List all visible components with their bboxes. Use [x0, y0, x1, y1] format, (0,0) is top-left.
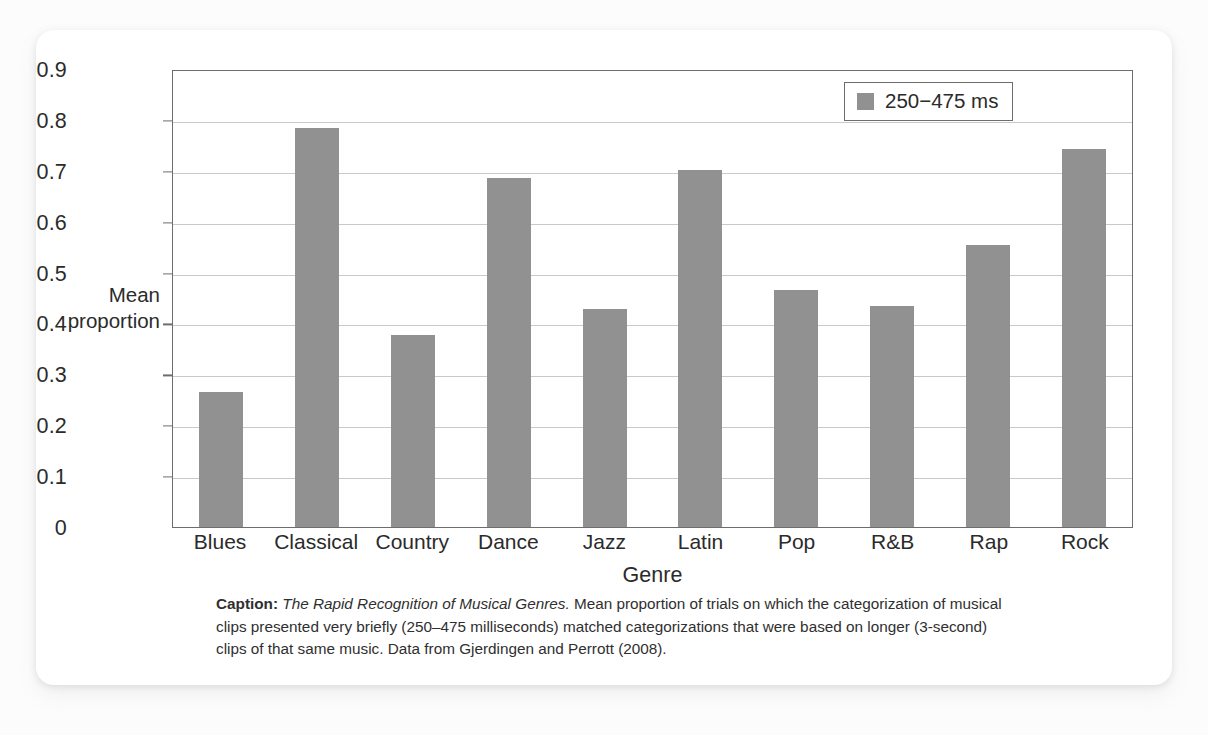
bar-chart: Mean proportion 00.10.20.30.40.50.60.70.… — [36, 30, 1172, 570]
bars-layer — [173, 71, 1132, 527]
bar-jazz — [583, 309, 627, 527]
y-axis-tick-label: 0.7 — [0, 159, 67, 184]
bar-latin — [678, 170, 722, 527]
plot-area — [172, 70, 1133, 528]
bar-slot — [940, 71, 1036, 527]
y-axis-tick-mark — [163, 120, 172, 121]
figure-caption: Caption: The Rapid Recognition of Musica… — [216, 593, 1016, 661]
y-axis-tick-label: 0.3 — [0, 363, 67, 388]
y-axis-tick-mark — [163, 222, 172, 223]
x-axis-tick-label: Rock — [1037, 530, 1133, 554]
y-axis-tick-label: 0.6 — [0, 210, 67, 235]
caption-label: Caption: — [216, 595, 278, 612]
bar-rap — [966, 245, 1010, 527]
y-axis-tick-label: 0.1 — [0, 465, 67, 490]
x-axis-tick-label: Dance — [460, 530, 556, 554]
x-axis-ticks: BluesClassicalCountryDanceJazzLatinPopR&… — [172, 530, 1133, 554]
y-axis-tick-label: 0.5 — [0, 261, 67, 286]
x-axis-tick-label: R&B — [845, 530, 941, 554]
x-axis-title: Genre — [172, 563, 1133, 588]
bar-slot — [1036, 71, 1132, 527]
y-axis-tick-mark — [163, 477, 172, 478]
figure-card: Mean proportion 00.10.20.30.40.50.60.70.… — [36, 30, 1172, 685]
y-axis-tick-mark — [163, 324, 172, 325]
y-axis-tick-label: 0.9 — [0, 58, 67, 83]
bar-slot — [748, 71, 844, 527]
bar-dance — [487, 178, 531, 527]
y-axis-tick-label: 0.8 — [0, 108, 67, 133]
bar-country — [391, 335, 435, 527]
x-axis-tick-label: Pop — [749, 530, 845, 554]
x-axis-tick-label: Latin — [652, 530, 748, 554]
y-axis-tick-mark — [163, 426, 172, 427]
bar-slot — [173, 71, 269, 527]
y-axis-tick-mark — [163, 375, 172, 376]
bar-slot — [365, 71, 461, 527]
y-axis-tick-label: 0.4 — [0, 312, 67, 337]
legend-label: 250−475 ms — [885, 89, 998, 113]
caption-title: The Rapid Recognition of Musical Genres. — [282, 595, 569, 612]
x-axis-tick-label: Country — [364, 530, 460, 554]
legend-swatch-icon — [857, 93, 874, 110]
y-axis-tick-mark — [163, 171, 172, 172]
x-axis-tick-label: Classical — [268, 530, 364, 554]
x-axis-tick-label: Rap — [941, 530, 1037, 554]
bar-r-b — [870, 306, 914, 527]
page-root: Mean proportion 00.10.20.30.40.50.60.70.… — [0, 0, 1208, 735]
y-axis-tick-label: 0.2 — [0, 414, 67, 439]
x-axis-tick-label: Blues — [172, 530, 268, 554]
bar-blues — [199, 392, 243, 527]
x-axis-tick-label: Jazz — [556, 530, 652, 554]
bar-pop — [774, 290, 818, 527]
bar-classical — [295, 128, 339, 527]
bar-slot — [844, 71, 940, 527]
bar-slot — [557, 71, 653, 527]
legend: 250−475 ms — [844, 82, 1013, 121]
bar-slot — [269, 71, 365, 527]
bar-slot — [461, 71, 557, 527]
bar-rock — [1062, 149, 1106, 527]
y-axis-tick-label: 0 — [0, 516, 67, 541]
y-axis-tick-mark — [163, 273, 172, 274]
bar-slot — [653, 71, 749, 527]
